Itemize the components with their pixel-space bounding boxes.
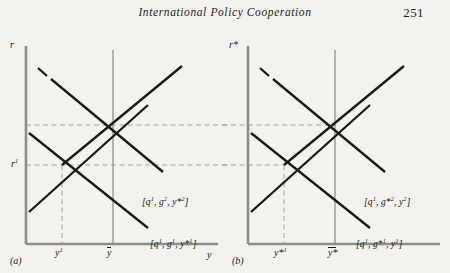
curve-low-up-a [29,105,148,212]
curve-upper-down-head-b [260,68,269,76]
book-page: International Policy Cooperation 251 [0,0,450,273]
curve-low-up-b [251,105,370,212]
curve-high-up-b [284,66,404,165]
running-head: International Policy Cooperation [0,6,450,18]
y-axis-label-a: r [10,40,14,50]
curve-label-lower-b: [q1, g*1, y1] [356,240,403,250]
x-tick-ystar1-b: y*1 [274,248,287,258]
figure-panel-b: r* y*1 y* [q1, g*2, y2] [q1, g*1, y1] (b… [222,32,450,273]
curve-lower-down-a [29,133,148,228]
curve-upper-down-head-a [38,68,47,76]
y-tick-r1-a: r1 [11,159,18,169]
x-tick-ybar-a: y [107,248,111,258]
plot-area-a [0,32,228,273]
figure-panel-a: r y r1 y1 y [q1, g2, y*2] [q1, g1, y*1] … [0,32,228,273]
curve-high-up-a [62,66,182,165]
curve-upper-down-a [51,79,163,172]
y-axis-label-b: r* [229,40,238,50]
plot-area-b [222,32,450,273]
curve-upper-down-b [273,79,385,172]
chart-svg-a [0,32,228,273]
panel-caption-a: (a) [10,256,22,266]
x-axis-label-a: y [207,250,211,260]
curve-lower-down-b [251,133,370,228]
x-tick-ybarstar-b: y* [328,248,337,258]
chart-svg-b [222,32,450,273]
curve-label-upper-b: [q1, g*2, y2] [364,198,411,208]
x-tick-y1-a: y1 [55,248,63,258]
page-number: 251 [403,5,424,21]
curve-label-lower-a: [q1, g1, y*1] [150,240,197,250]
panel-caption-b: (b) [232,256,244,266]
curve-label-upper-a: [q1, g2, y*2] [142,198,189,208]
